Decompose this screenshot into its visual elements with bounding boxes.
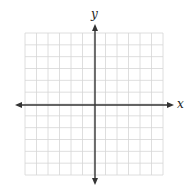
coordinate-plane [0, 0, 188, 194]
arrow-left-icon [15, 102, 22, 108]
x-axis-label: x [177, 98, 184, 110]
arrow-down-icon [92, 178, 98, 185]
grid [25, 33, 163, 175]
arrow-right-icon [167, 102, 174, 108]
y-axis-label: y [91, 8, 98, 20]
arrow-up-icon [92, 24, 98, 31]
